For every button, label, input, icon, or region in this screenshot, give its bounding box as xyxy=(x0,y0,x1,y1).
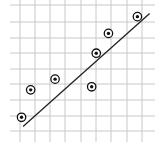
data-point xyxy=(92,49,100,57)
data-point xyxy=(104,29,112,37)
grid-lines xyxy=(10,0,155,142)
data-points xyxy=(17,12,141,121)
data-point xyxy=(17,113,25,121)
chart-canvas xyxy=(0,0,163,150)
data-point xyxy=(26,86,34,94)
data-point xyxy=(51,75,59,83)
best-fit-line xyxy=(23,14,150,127)
data-point xyxy=(87,83,95,91)
data-point xyxy=(133,12,141,20)
